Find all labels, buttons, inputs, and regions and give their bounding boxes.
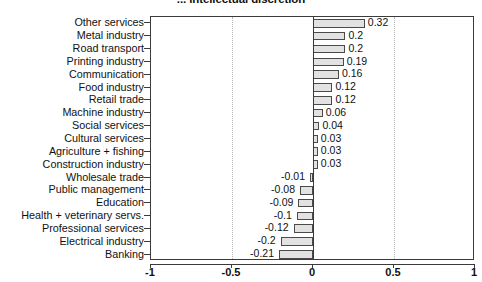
chart-figure: ... intellectual discretion 0.320.20.20.… — [0, 0, 482, 282]
y-axis-label: Communication — [0, 68, 144, 80]
chart-title: ... intellectual discretion — [0, 0, 482, 5]
bar-row: -0.09 — [151, 197, 473, 210]
y-axis-tick — [144, 177, 150, 178]
bar — [281, 237, 313, 246]
bar-value-label: -0.1 — [274, 209, 292, 222]
bar-value-label: 0.12 — [335, 80, 355, 93]
bar — [313, 19, 365, 28]
bar — [313, 96, 332, 105]
x-axis-tick-label: -1 — [120, 266, 180, 278]
y-axis-label: Education — [0, 196, 144, 208]
bar — [294, 224, 313, 233]
x-axis-tick-label: -0.5 — [201, 266, 261, 278]
bar-row: 0.06 — [151, 107, 473, 120]
bar — [313, 58, 344, 67]
bar-value-label: 0.32 — [368, 16, 388, 29]
y-axis-label: Retail trade — [0, 93, 144, 105]
bar-row: 0.32 — [151, 17, 473, 30]
bar-row: -0.08 — [151, 184, 473, 197]
y-axis-tick — [144, 99, 150, 100]
bar — [313, 109, 323, 118]
bar-value-label: 0.03 — [321, 157, 341, 170]
bar-row: 0.03 — [151, 133, 473, 146]
x-axis-tick-label: 1 — [444, 266, 482, 278]
bar-row: -0.01 — [151, 171, 473, 184]
bar-value-label: -0.09 — [269, 196, 293, 209]
bar-row: 0.16 — [151, 68, 473, 81]
bar-value-label: 0.2 — [348, 42, 363, 55]
y-axis-tick — [144, 241, 150, 242]
y-axis-tick — [144, 61, 150, 62]
y-axis-label: Printing industry — [0, 55, 144, 67]
bar — [297, 212, 313, 221]
x-axis-tick-label: 0 — [282, 266, 342, 278]
bar-value-label: 0.03 — [321, 132, 341, 145]
y-axis-tick — [144, 125, 150, 126]
bar — [300, 186, 313, 195]
y-axis-tick — [144, 74, 150, 75]
bar — [313, 70, 339, 79]
bar-row: 0.2 — [151, 43, 473, 56]
bar — [313, 45, 345, 54]
y-axis-tick — [144, 215, 150, 216]
bar-value-label: 0.19 — [347, 55, 367, 68]
y-axis-tick — [144, 228, 150, 229]
bar-value-label: -0.08 — [271, 183, 295, 196]
y-axis-label: Agriculture + fishing — [0, 145, 144, 157]
bar-value-label: 0.06 — [326, 106, 346, 119]
bar-value-label: -0.01 — [281, 170, 305, 183]
bar-value-label: 0.04 — [322, 119, 342, 132]
bar-value-label: 0.16 — [342, 67, 362, 80]
y-axis-label: Road transport — [0, 42, 144, 54]
bar-row: -0.2 — [151, 235, 473, 248]
bar-value-label: 0.03 — [321, 144, 341, 157]
bar — [313, 83, 332, 92]
bar — [298, 199, 313, 208]
y-axis-label: Wholesale trade — [0, 171, 144, 183]
y-axis-tick — [144, 202, 150, 203]
y-axis-label: Other services — [0, 16, 144, 28]
y-axis-tick — [144, 35, 150, 36]
y-axis-tick — [144, 48, 150, 49]
bar-value-label: 0.12 — [335, 93, 355, 106]
plot-area: 0.320.20.20.190.160.120.120.060.040.030.… — [150, 16, 474, 260]
x-axis-tick-label: 0.5 — [363, 266, 423, 278]
bar — [313, 32, 345, 41]
bar-value-label: -0.21 — [250, 247, 274, 260]
bar-row: 0.2 — [151, 30, 473, 43]
y-axis-tick — [144, 189, 150, 190]
y-axis-tick — [144, 22, 150, 23]
y-axis-label: Metal industry — [0, 29, 144, 41]
y-axis-label: Cultural services — [0, 132, 144, 144]
bar-row: -0.12 — [151, 222, 473, 235]
bar-row: 0.12 — [151, 94, 473, 107]
y-axis-label: Social services — [0, 119, 144, 131]
bar-row: 0.19 — [151, 56, 473, 69]
bar — [279, 250, 313, 259]
y-axis-tick — [144, 151, 150, 152]
y-axis-label: Food industry — [0, 81, 144, 93]
bar-row: 0.03 — [151, 145, 473, 158]
y-axis-tick — [144, 138, 150, 139]
y-axis-label: Public management — [0, 183, 144, 195]
bar-row: 0.04 — [151, 120, 473, 133]
bar-row: 0.12 — [151, 81, 473, 94]
bar-value-label: -0.12 — [265, 221, 289, 234]
y-axis-tick — [144, 87, 150, 88]
bar-row: 0.03 — [151, 158, 473, 171]
y-axis-tick — [144, 254, 150, 255]
y-axis-tick — [144, 112, 150, 113]
y-axis-label: Professional services — [0, 222, 144, 234]
y-axis-label: Health + veterinary servs. — [0, 209, 144, 221]
zero-axis-line — [313, 17, 314, 259]
bar-row: -0.1 — [151, 210, 473, 223]
bar-row: -0.21 — [151, 248, 473, 261]
y-axis-label: Machine industry — [0, 106, 144, 118]
y-axis-label: Electrical industry — [0, 235, 144, 247]
y-axis-label: Banking — [0, 248, 144, 260]
bar-value-label: -0.2 — [258, 234, 276, 247]
y-axis-tick — [144, 164, 150, 165]
y-axis-label: Construction industry — [0, 158, 144, 170]
bar-value-label: 0.2 — [348, 29, 363, 42]
